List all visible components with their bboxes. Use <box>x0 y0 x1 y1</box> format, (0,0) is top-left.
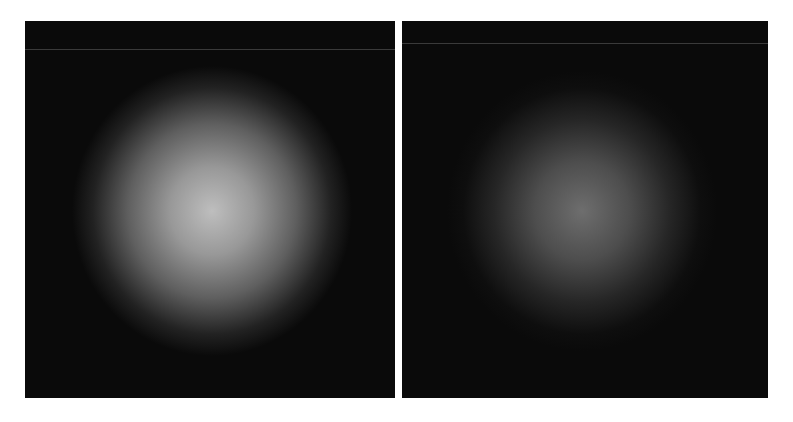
speckle-image-left <box>25 21 395 398</box>
speckle-noise-left <box>25 21 395 398</box>
speckle-image-right <box>402 21 768 398</box>
scan-line-artifact <box>402 43 768 44</box>
speckle-noise-right <box>402 21 768 398</box>
scan-line-artifact <box>25 49 395 50</box>
